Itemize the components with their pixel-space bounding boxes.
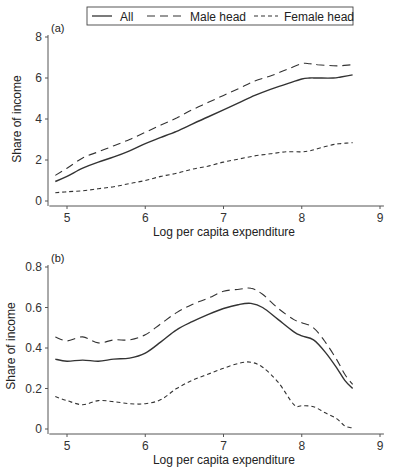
x-tick-label: 6	[142, 439, 149, 453]
y-axis-title-b: Share of income	[4, 302, 18, 390]
x-tick-label: 6	[142, 211, 149, 225]
y-tick-label: 0	[35, 194, 42, 208]
legend-label-male-head: Male head	[190, 10, 246, 24]
axes-a: 5678902468	[35, 30, 384, 225]
series-line-female-head	[55, 362, 352, 428]
y-axis-title-a: Share of income	[10, 75, 24, 163]
y-tick-label: 6	[35, 71, 42, 85]
panel-a: (a) Share of income Log per capita expen…	[10, 22, 384, 239]
y-tick-label: 0.6	[25, 301, 42, 315]
series-line-male-head	[55, 288, 352, 384]
x-tick-label: 5	[64, 211, 71, 225]
legend-label-female-head: Female head	[284, 10, 354, 24]
y-tick-label: 2	[35, 153, 42, 167]
panel-b: (b) Share of income Log per capita expen…	[4, 252, 384, 467]
panel-label-a: (a)	[51, 22, 64, 34]
x-tick-label: 9	[377, 211, 384, 225]
x-tick-label: 7	[220, 439, 227, 453]
x-axis-title-b: Log per capita expenditure	[153, 453, 295, 467]
y-tick-label: 0.4	[25, 341, 42, 355]
y-tick-label: 0.2	[25, 382, 42, 396]
series-line-all	[55, 75, 352, 182]
legend: All Male head Female head	[87, 7, 354, 25]
plot-lines-a	[55, 63, 352, 193]
x-tick-label: 5	[64, 439, 71, 453]
x-tick-label: 8	[298, 439, 305, 453]
x-tick-label: 7	[220, 211, 227, 225]
legend-label-all: All	[120, 10, 133, 24]
x-axis-title-a: Log per capita expenditure	[153, 225, 295, 239]
y-tick-label: 0	[35, 422, 42, 436]
panel-label-b: (b)	[51, 252, 64, 264]
series-line-female-head	[55, 143, 352, 193]
figure: All Male head Female head (a) Share of i…	[0, 0, 397, 475]
plot-lines-b	[55, 288, 352, 428]
y-tick-label: 4	[35, 112, 42, 126]
y-tick-label: 0.8	[25, 260, 42, 274]
line-chart-figure: All Male head Female head (a) Share of i…	[0, 0, 397, 475]
x-tick-label: 8	[298, 211, 305, 225]
x-tick-label: 9	[377, 439, 384, 453]
y-tick-label: 8	[35, 30, 42, 44]
axes-b: 5678900.20.40.60.8	[25, 260, 384, 453]
